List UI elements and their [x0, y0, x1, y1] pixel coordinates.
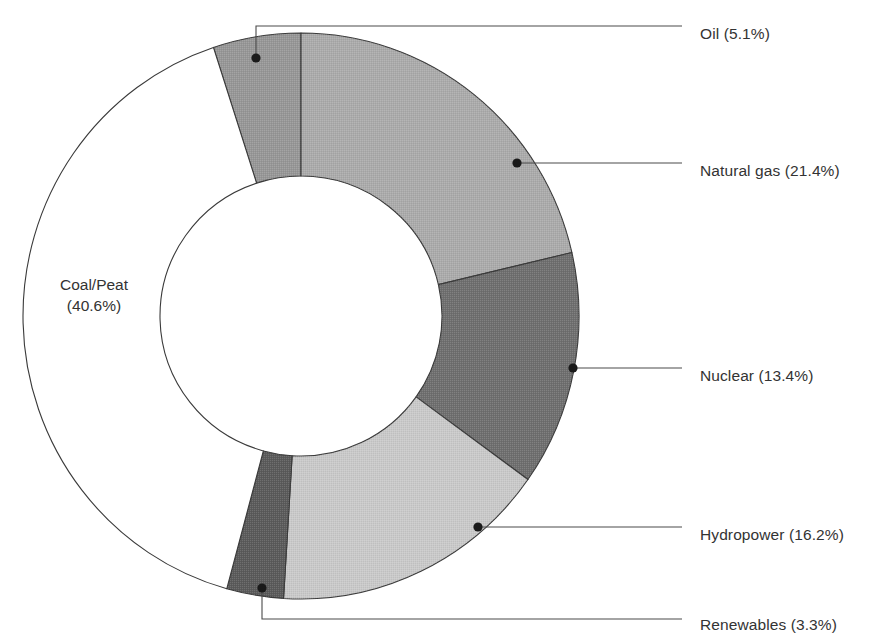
slice-label-oil: Oil (5.1%) — [700, 25, 770, 42]
slice-label-renewables: Renewables (3.3%) — [700, 616, 837, 633]
slice-texture-overlay — [301, 33, 572, 285]
donut-chart-svg: Oil (5.1%)Natural gas (21.4%)Nuclear (13… — [0, 0, 879, 644]
slice-label-nuclear: Nuclear (13.4%) — [700, 367, 814, 384]
leader-dot-natural-gas — [512, 158, 521, 167]
slice-label-natural-gas: Natural gas (21.4%) — [700, 162, 840, 179]
donut-slices-group — [23, 33, 579, 599]
slice-label-hydropower: Hydropower (16.2%) — [700, 526, 844, 543]
leader-dot-renewables — [257, 583, 266, 592]
leader-dot-hydropower — [473, 522, 482, 531]
leader-dot-oil — [251, 53, 260, 62]
donut-slice-coal-peat[interactable] — [23, 47, 263, 588]
leader-dot-nuclear — [568, 363, 577, 372]
donut-chart-figure: Oil (5.1%)Natural gas (21.4%)Nuclear (13… — [0, 0, 879, 644]
